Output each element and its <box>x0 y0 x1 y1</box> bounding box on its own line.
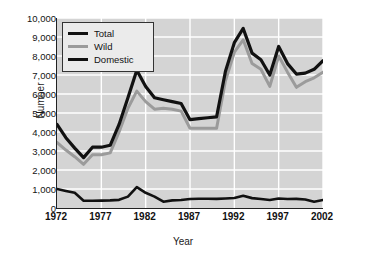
y-tick-label: 1,000 <box>12 185 56 194</box>
legend-item-wild: Wild <box>68 40 148 53</box>
y-tick-label: 8,000 <box>12 52 56 61</box>
legend-label: Domestic <box>94 54 134 65</box>
x-tick-label: 1997 <box>267 211 289 222</box>
legend-item-total: Total <box>68 27 148 40</box>
y-tick-label: 10,000 <box>12 14 56 23</box>
legend-swatch-icon <box>68 32 88 35</box>
y-tick-label: 7,000 <box>12 71 56 80</box>
y-tick-label: 9,000 <box>12 33 56 42</box>
x-tick-label: 1972 <box>45 211 67 222</box>
x-tick-label: 2002 <box>311 211 333 222</box>
legend-item-domestic: Domestic <box>68 53 148 66</box>
legend-label: Total <box>94 28 114 39</box>
x-tick-label: 1987 <box>178 211 200 222</box>
y-tick-label: 5,000 <box>12 109 56 118</box>
legend-swatch-icon <box>68 45 88 48</box>
chart-legend: TotalWildDomestic <box>62 22 154 72</box>
legend-label: Wild <box>94 41 112 52</box>
x-tick-label: 1992 <box>222 211 244 222</box>
legend-swatch-icon <box>68 58 88 61</box>
y-tick-label: 4,000 <box>12 128 56 137</box>
y-tick-label: 3,000 <box>12 147 56 156</box>
x-axis-title: Year <box>0 236 366 247</box>
x-tick-label: 1977 <box>89 211 111 222</box>
line-chart-figure: Number 01,0002,0003,0004,0005,0006,0007,… <box>0 0 366 263</box>
y-axis-tick-labels: 01,0002,0003,0004,0005,0006,0007,0008,00… <box>6 0 56 263</box>
y-tick-label: 6,000 <box>12 90 56 99</box>
x-tick-label: 1982 <box>134 211 156 222</box>
y-tick-label: 2,000 <box>12 166 56 175</box>
